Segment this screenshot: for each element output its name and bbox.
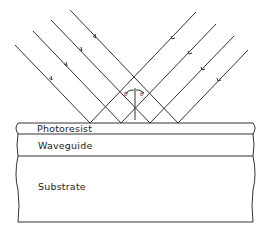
waveguide-label: Waveguide xyxy=(38,140,92,151)
right-break-edge xyxy=(252,123,255,222)
theta-left-label: θ xyxy=(124,90,128,97)
arrow-icons-right xyxy=(171,36,221,81)
photoresist-label: Photoresist xyxy=(37,123,92,134)
arrow-icons-left xyxy=(49,34,96,80)
interference-diagram: θ θ xyxy=(0,0,268,238)
substrate-label: Substrate xyxy=(38,181,86,192)
right-beam-rays xyxy=(90,12,248,123)
left-beam-rays xyxy=(15,10,178,123)
theta-right-label: θ xyxy=(140,90,144,97)
left-break-edge xyxy=(16,123,19,222)
